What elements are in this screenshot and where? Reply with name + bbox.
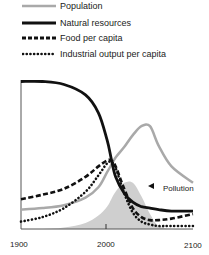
x-tick-label-1900: 1900 [10, 240, 28, 249]
series-lines [21, 81, 193, 226]
x-tick-label-2100: 2100 [184, 241, 202, 250]
x-tick-label-2000: 2000 [97, 240, 115, 249]
plot-area [0, 0, 209, 255]
pollution-pointer-icon [148, 183, 154, 189]
pollution-annotation: Pollution [163, 184, 194, 193]
